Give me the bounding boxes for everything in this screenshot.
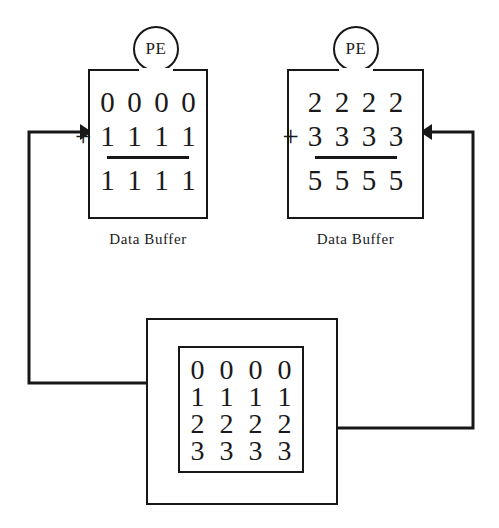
operand-row-top-left: 0 0 0 0 xyxy=(94,85,202,119)
operand-row-bottom-right: + 3 3 3 3 xyxy=(302,119,410,153)
data-buffer-box-right: 2 2 2 2 + 3 3 3 3 xyxy=(287,69,424,219)
matrix-cell: 2 xyxy=(212,410,241,437)
matrix-cell: 3 xyxy=(212,437,241,464)
matrix-row: 1 1 1 1 xyxy=(183,383,299,410)
matrix-cell: 1 xyxy=(183,383,212,410)
matrix-cell: 1 xyxy=(212,383,241,410)
matrix-cell: 0 xyxy=(212,356,241,383)
result-digits-left: 1 1 1 1 xyxy=(94,163,202,197)
matrix-row: 3 3 3 3 xyxy=(183,437,299,464)
digit: 2 xyxy=(356,85,383,119)
digit: 2 xyxy=(302,85,329,119)
memory-module-outer: 0 0 0 0 1 1 1 1 2 2 2 2 xyxy=(146,318,338,505)
digit: 0 xyxy=(94,85,121,119)
digit: 1 xyxy=(175,119,202,153)
sum-divider-right xyxy=(315,156,397,159)
operand-row-bottom-left: + 1 1 1 1 xyxy=(94,119,202,153)
data-buffer-label-right: Data Buffer xyxy=(287,231,424,248)
digit: 1 xyxy=(121,163,148,197)
digit: 0 xyxy=(148,85,175,119)
matrix-cell: 0 xyxy=(270,356,299,383)
digit: 5 xyxy=(302,163,329,197)
pe-badge-left-label: PE xyxy=(146,39,167,59)
memory-matrix: 0 0 0 0 1 1 1 1 2 2 2 2 xyxy=(180,348,302,471)
digit: 1 xyxy=(175,163,202,197)
matrix-cell: 2 xyxy=(183,410,212,437)
matrix-cell: 1 xyxy=(241,383,270,410)
matrix-row: 2 2 2 2 xyxy=(183,410,299,437)
operand-row-top-right: 2 2 2 2 xyxy=(302,85,410,119)
matrix-cell: 2 xyxy=(270,410,299,437)
data-buffer-label-left: Data Buffer xyxy=(88,231,208,248)
digit: 1 xyxy=(94,119,121,153)
digit: 3 xyxy=(383,119,410,153)
digit: 2 xyxy=(329,85,356,119)
data-buffer-box-left: 0 0 0 0 + 1 1 1 1 xyxy=(88,69,208,219)
pe-badge-right-joint-mask xyxy=(339,68,373,72)
pe-badge-right: PE xyxy=(333,26,379,72)
digit: 0 xyxy=(175,85,202,119)
digit: 1 xyxy=(148,119,175,153)
digit: 0 xyxy=(121,85,148,119)
digit: 3 xyxy=(302,119,329,153)
operand-top-digits-right: 2 2 2 2 xyxy=(302,85,410,119)
digit: 2 xyxy=(383,85,410,119)
result-row-left: 1 1 1 1 xyxy=(94,163,202,197)
sum-divider-left xyxy=(107,156,189,159)
digit: 1 xyxy=(148,163,175,197)
result-digits-right: 5 5 5 5 xyxy=(302,163,410,197)
result-row-right: 5 5 5 5 xyxy=(302,163,410,197)
digit: 5 xyxy=(356,163,383,197)
memory-module-inner: 0 0 0 0 1 1 1 1 2 2 2 2 xyxy=(178,346,304,473)
digit: 1 xyxy=(94,163,121,197)
operand-bottom-digits-left: 1 1 1 1 xyxy=(94,119,202,153)
matrix-cell: 0 xyxy=(241,356,270,383)
operand-bottom-digits-right: 3 3 3 3 xyxy=(302,119,410,153)
plus-operator-left: + xyxy=(75,122,91,151)
matrix-cell: 3 xyxy=(183,437,212,464)
operand-top-digits-left: 0 0 0 0 xyxy=(94,85,202,119)
addition-block-right: 2 2 2 2 + 3 3 3 3 xyxy=(289,85,422,197)
digit: 5 xyxy=(329,163,356,197)
digit: 5 xyxy=(383,163,410,197)
matrix-cell: 1 xyxy=(270,383,299,410)
pe-badge-left-joint-mask xyxy=(139,68,173,72)
matrix-cell: 3 xyxy=(270,437,299,464)
matrix-cell: 3 xyxy=(241,437,270,464)
pe-badge-left: PE xyxy=(133,26,179,72)
digit: 3 xyxy=(329,119,356,153)
plus-operator-right: + xyxy=(283,122,299,151)
addition-block-left: 0 0 0 0 + 1 1 1 1 xyxy=(90,85,206,197)
digit: 1 xyxy=(121,119,148,153)
digit: 3 xyxy=(356,119,383,153)
matrix-cell: 0 xyxy=(183,356,212,383)
pe-badge-right-label: PE xyxy=(346,39,367,59)
diagram-canvas: PE 0 0 0 0 + 1 1 1 xyxy=(0,0,499,528)
matrix-row: 0 0 0 0 xyxy=(183,356,299,383)
matrix-cell: 2 xyxy=(241,410,270,437)
